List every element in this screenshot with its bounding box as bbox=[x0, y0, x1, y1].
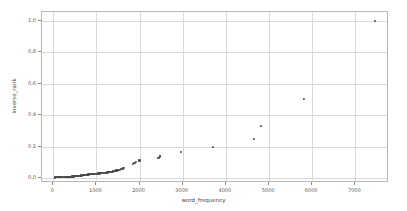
x-gridline bbox=[269, 12, 270, 181]
x-tick bbox=[268, 182, 269, 185]
scatter-point bbox=[139, 159, 141, 161]
scatter-point bbox=[302, 98, 304, 100]
scatter-point bbox=[122, 167, 124, 169]
y-tick-label: 0.4 bbox=[28, 111, 36, 117]
scatter-point bbox=[260, 124, 262, 126]
y-gridline bbox=[42, 178, 387, 179]
x-gridline bbox=[355, 12, 356, 181]
x-gridline bbox=[53, 12, 54, 181]
scatter-point bbox=[159, 155, 161, 157]
x-tick bbox=[52, 182, 53, 185]
y-gridline bbox=[42, 52, 387, 53]
y-tick bbox=[38, 177, 41, 178]
y-axis-label: inverse_rank bbox=[11, 78, 17, 113]
y-tick bbox=[38, 146, 41, 147]
x-gridline bbox=[140, 12, 141, 181]
x-tick-label: 4000 bbox=[218, 187, 231, 193]
x-gridline bbox=[226, 12, 227, 181]
x-gridline bbox=[312, 12, 313, 181]
x-tick-label: 2000 bbox=[132, 187, 145, 193]
y-tick bbox=[38, 20, 41, 21]
scatter-point bbox=[135, 161, 137, 163]
x-tick bbox=[311, 182, 312, 185]
scatter-point bbox=[179, 151, 181, 153]
y-gridline bbox=[42, 115, 387, 116]
x-tick bbox=[225, 182, 226, 185]
y-tick bbox=[38, 83, 41, 84]
x-gridline bbox=[183, 12, 184, 181]
y-tick-label: 0.2 bbox=[28, 143, 36, 149]
y-tick-label: 0.8 bbox=[28, 48, 36, 54]
x-tick-label: 6000 bbox=[305, 187, 318, 193]
y-gridline bbox=[42, 21, 387, 22]
x-gridline bbox=[96, 12, 97, 181]
y-tick bbox=[38, 114, 41, 115]
y-tick-label: 0.0 bbox=[28, 174, 36, 180]
x-tick-label: 5000 bbox=[262, 187, 275, 193]
y-gridline bbox=[42, 147, 387, 148]
x-tick-label: 1000 bbox=[89, 187, 102, 193]
y-tick-label: 0.6 bbox=[28, 80, 36, 86]
y-tick-label: 1.0 bbox=[28, 17, 36, 23]
x-tick bbox=[95, 182, 96, 185]
y-tick bbox=[38, 51, 41, 52]
x-tick-label: 7000 bbox=[348, 187, 361, 193]
x-tick bbox=[182, 182, 183, 185]
x-tick-label: 3000 bbox=[175, 187, 188, 193]
scatter-plot-figure: 010002000300040005000600070000.00.20.40.… bbox=[0, 0, 407, 211]
plot-area bbox=[41, 11, 388, 182]
x-tick bbox=[139, 182, 140, 185]
x-tick-label: 0 bbox=[51, 187, 54, 193]
x-axis-label: word_frequency bbox=[0, 197, 407, 203]
scatter-point bbox=[253, 138, 255, 140]
y-gridline bbox=[42, 84, 387, 85]
x-tick bbox=[354, 182, 355, 185]
